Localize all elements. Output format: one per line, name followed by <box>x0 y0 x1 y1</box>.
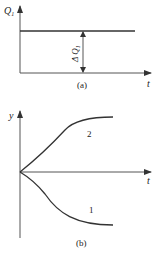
panel-b-caption: (b) <box>76 238 87 248</box>
curve-1 <box>20 172 113 225</box>
curve-2 <box>20 117 113 172</box>
panel-a-y-label: Q1 <box>4 5 14 17</box>
delta-q-label: Δ Q1 <box>70 45 81 63</box>
panel-b-x-label: t <box>147 175 150 186</box>
panel-a-x-label: t <box>147 78 150 89</box>
curve-2-label: 2 <box>87 129 92 139</box>
diagram-canvas: Q1 t (a) Δ Q1 y t 2 1 (b) <box>0 0 156 262</box>
panel-b: y t 2 1 (b) <box>8 110 151 248</box>
panel-b-y-label: y <box>8 110 14 121</box>
curve-1-label: 1 <box>89 205 94 215</box>
panel-a-caption: (a) <box>77 80 87 90</box>
panel-a: Q1 t (a) Δ Q1 <box>4 5 151 90</box>
